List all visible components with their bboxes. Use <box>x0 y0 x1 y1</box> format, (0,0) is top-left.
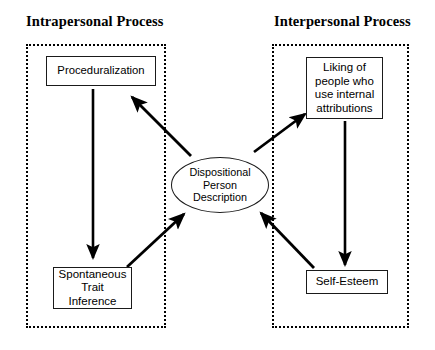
node-dispositional-person-description: Dispositional Person Description <box>171 157 269 213</box>
node-liking-of-people: Liking of people who use internal attrib… <box>306 57 383 119</box>
diagram-canvas: Intrapersonal Process Interpersonal Proc… <box>0 0 435 350</box>
heading-intrapersonal-process: Intrapersonal Process <box>26 13 164 30</box>
node-proceduralization: Proceduralization <box>46 56 156 86</box>
heading-interpersonal-process: Interpersonal Process <box>274 13 411 30</box>
node-self-esteem: Self-Esteem <box>306 270 388 294</box>
node-spontaneous-trait-inference: Spontaneous Trait Inference <box>53 267 132 309</box>
